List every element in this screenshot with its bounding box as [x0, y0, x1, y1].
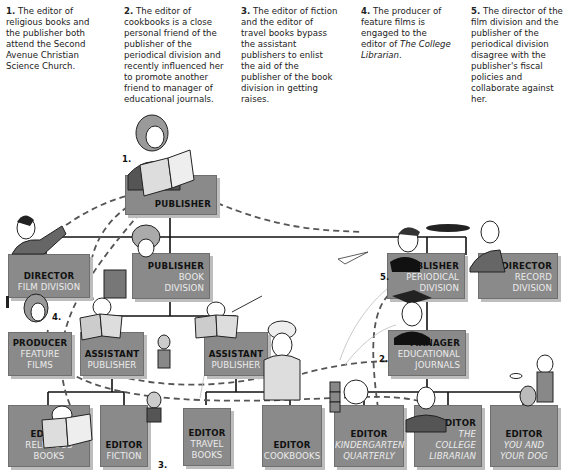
director-record-figure-icon: [426, 221, 505, 272]
publisher-figure-icon: [128, 115, 194, 196]
climbing-figure-icon: [147, 335, 170, 422]
editor-college-figure-icon: [406, 387, 446, 432]
publisher-book-figure-icon: [104, 225, 160, 298]
editor-kindergarten-figure-icon: [330, 380, 368, 412]
editor-religious-figure-icon: [42, 406, 92, 448]
marker-3: 3.: [158, 460, 167, 470]
character-illustrations: [0, 0, 566, 476]
marker-2: 2.: [379, 354, 388, 364]
publisher-periodical-figure-icon: [390, 227, 420, 272]
marker-4: 4.: [52, 312, 61, 322]
editor-dog-figure-icon: [510, 355, 553, 406]
marker-1: 1.: [122, 154, 131, 164]
chef-figure-icon: [264, 321, 300, 400]
marker-5: 5.: [380, 272, 389, 282]
producer-figure-icon: [6, 294, 48, 322]
assistant-publisher-2-figure-icon: [195, 296, 262, 338]
assistant-publisher-1-figure-icon: [80, 298, 122, 340]
manager-figure-icon: [392, 290, 432, 345]
director-film-figure-icon: [12, 215, 66, 254]
